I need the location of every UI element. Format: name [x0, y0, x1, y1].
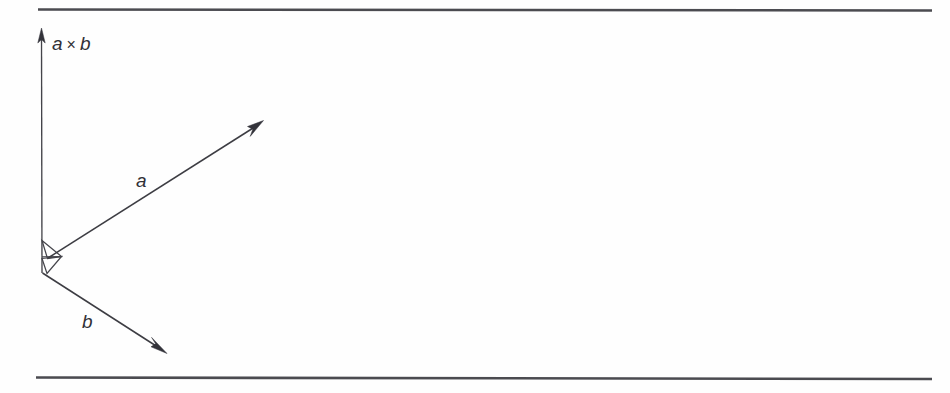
cross-product-label-b: b: [80, 33, 91, 54]
angle-markers: [42, 241, 62, 274]
right-angle-marker-axis-b: [42, 257, 62, 274]
cross-product-axis-shaft: [42, 33, 43, 273]
vector-diagram: a×b a b: [0, 0, 950, 393]
vector-a-arrowhead: [248, 121, 264, 137]
vector-b-label: b: [82, 311, 93, 332]
cross-product-label-a: a: [52, 33, 63, 54]
vector-b-shaft: [43, 273, 159, 348]
cross-product-operator-symbol: ×: [67, 36, 76, 53]
vector-a-shaft: [48, 127, 256, 259]
cross-product-label: a×b: [52, 33, 91, 54]
vector-b: [43, 273, 168, 354]
bottom-rule: [36, 378, 932, 380]
vector-b-arrowhead: [151, 337, 167, 353]
top-rule: [38, 10, 932, 11]
vector-a: [48, 121, 264, 259]
vector-a-label: a: [136, 170, 147, 191]
figure-page: a×b a b: [0, 0, 950, 393]
cross-product-axis: [38, 28, 45, 273]
